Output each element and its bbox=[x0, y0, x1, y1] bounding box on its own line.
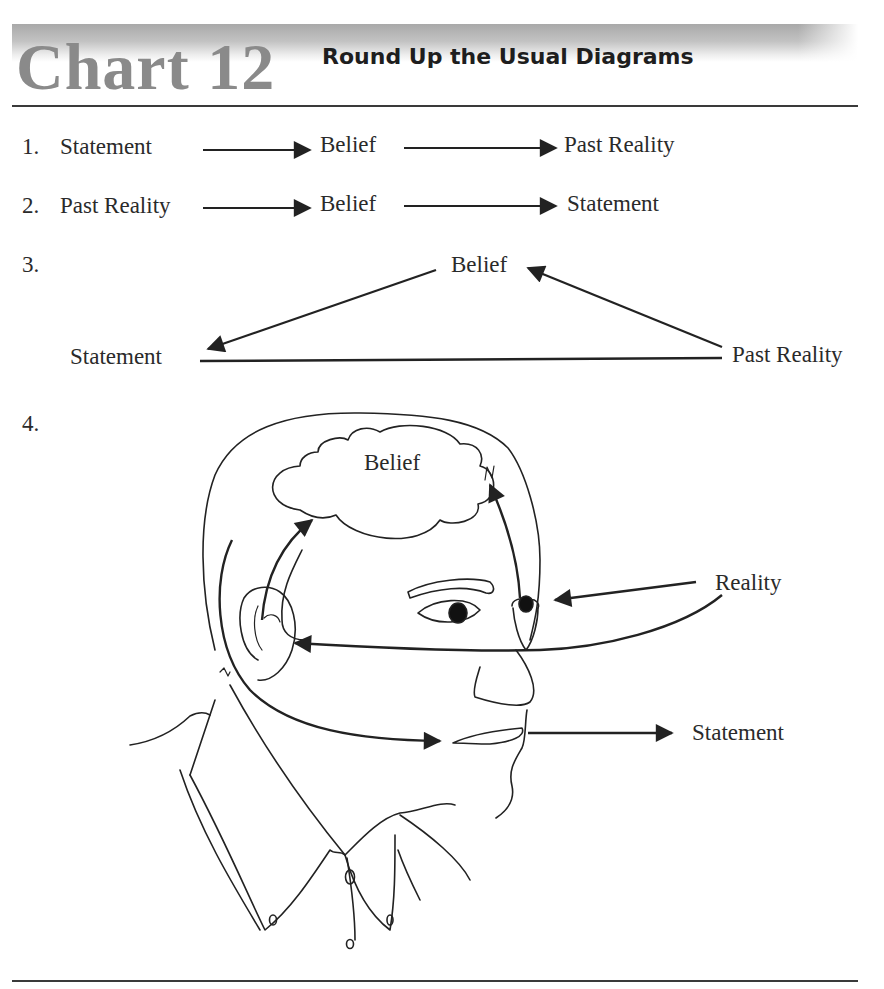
arrow-icon bbox=[220, 540, 440, 741]
arrow-icon bbox=[208, 270, 436, 349]
arrow-icon bbox=[555, 582, 696, 600]
neck-left bbox=[190, 700, 215, 775]
eyebrow-left bbox=[408, 579, 493, 598]
nose bbox=[474, 650, 534, 705]
footer-divider bbox=[12, 980, 858, 982]
label-reality: Reality bbox=[715, 570, 781, 596]
mouth bbox=[453, 728, 523, 744]
shoulder bbox=[130, 713, 210, 745]
row3-number: 3. bbox=[22, 252, 39, 278]
label-statement: Statement bbox=[692, 720, 784, 746]
arrow-icon bbox=[262, 520, 312, 620]
neck-notch bbox=[220, 668, 230, 676]
connector-line bbox=[200, 358, 722, 361]
cloud-label-belief: Belief bbox=[364, 450, 420, 476]
row2-node-statement: Statement bbox=[567, 191, 659, 217]
arrow-icon bbox=[528, 268, 722, 347]
row2-arrows bbox=[203, 206, 556, 208]
thought-cloud bbox=[273, 426, 494, 539]
shirt-fold bbox=[400, 815, 470, 880]
arrow-icon bbox=[295, 595, 722, 651]
row3-node-past-reality: Past Reality bbox=[732, 342, 843, 368]
button-icon bbox=[347, 940, 354, 949]
head-illustration bbox=[130, 413, 540, 949]
hairline bbox=[282, 550, 305, 640]
row3-node-belief: Belief bbox=[451, 252, 507, 278]
row3-node-statement: Statement bbox=[70, 344, 162, 370]
neck-line bbox=[230, 685, 345, 855]
collar-right bbox=[190, 775, 395, 930]
arrow-icon bbox=[490, 485, 520, 598]
head-outline bbox=[203, 413, 540, 650]
row1-number: 1. bbox=[22, 134, 39, 160]
row2-node-past-reality: Past Reality bbox=[60, 193, 171, 219]
pupil-right bbox=[519, 596, 533, 612]
row4-number: 4. bbox=[22, 411, 39, 437]
collar-left bbox=[180, 770, 260, 930]
row3-triangle bbox=[200, 268, 722, 361]
face-profile bbox=[496, 710, 527, 818]
head-arrows bbox=[220, 485, 722, 741]
pupil-left bbox=[449, 603, 467, 623]
ear-detail bbox=[255, 606, 280, 650]
row1-arrows bbox=[203, 148, 556, 150]
row1-node-past-reality: Past Reality bbox=[564, 132, 675, 158]
row2-node-belief: Belief bbox=[320, 191, 376, 217]
row1-node-belief: Belief bbox=[320, 132, 376, 158]
collar-top bbox=[345, 804, 455, 855]
row1-node-statement: Statement bbox=[60, 134, 152, 160]
eye-right bbox=[513, 608, 538, 650]
row2-number: 2. bbox=[22, 193, 39, 219]
collar-inner bbox=[398, 850, 420, 900]
